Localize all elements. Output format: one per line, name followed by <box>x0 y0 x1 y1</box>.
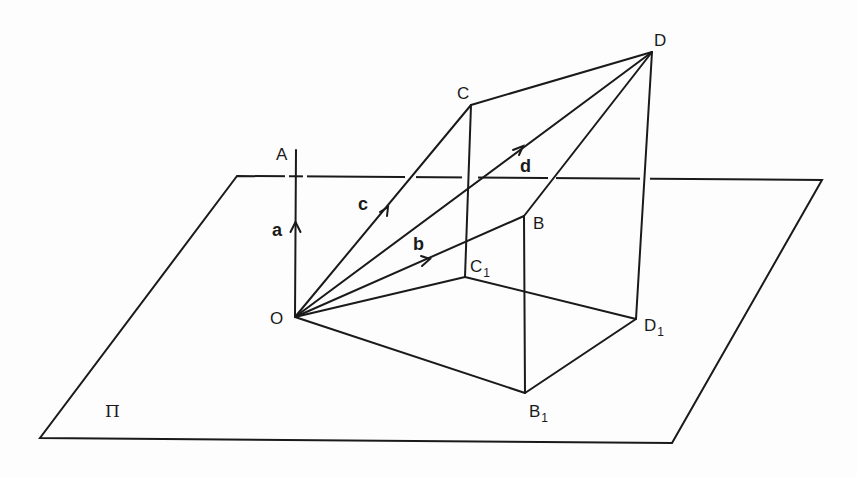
label-D1-sub: 1 <box>657 325 664 339</box>
label-vector-a: a <box>272 221 282 239</box>
label-point-B1: B1 <box>529 403 548 420</box>
label-vector-b: b <box>413 235 424 253</box>
label-B1-main: B <box>529 402 540 421</box>
label-C1-sub: 1 <box>483 266 490 280</box>
label-point-A: A <box>276 146 287 163</box>
label-plane-pi: Π <box>105 403 120 420</box>
arrowheads <box>291 146 524 266</box>
label-point-C: C <box>457 85 469 102</box>
vector-diagram: A C D B O C1 D1 B1 a b c d Π <box>0 0 857 477</box>
edge-D-D1 <box>636 52 652 319</box>
edge-D1-C1 <box>465 277 636 319</box>
projection-lines <box>465 52 652 393</box>
label-point-O: O <box>270 310 283 327</box>
edge-O-B1 <box>295 317 525 393</box>
upper-parallelogram <box>471 52 652 216</box>
label-vector-c: c <box>358 195 368 213</box>
label-D1-main: D <box>644 316 656 335</box>
label-point-B: B <box>533 215 544 232</box>
edge-B-B1 <box>524 216 525 393</box>
label-vector-d: d <box>520 157 531 175</box>
edge-C-D <box>471 52 652 105</box>
label-C1-main: C <box>470 257 482 276</box>
vector-d-line <box>295 52 652 317</box>
label-B1-sub: 1 <box>541 411 548 425</box>
diagram-canvas <box>0 0 857 477</box>
vectors <box>295 52 652 317</box>
label-point-D1: D1 <box>644 317 664 334</box>
vector-a-line <box>295 150 296 317</box>
label-point-C1: C1 <box>470 258 490 275</box>
edge-B1-D1 <box>525 319 636 393</box>
label-point-D: D <box>654 32 666 49</box>
